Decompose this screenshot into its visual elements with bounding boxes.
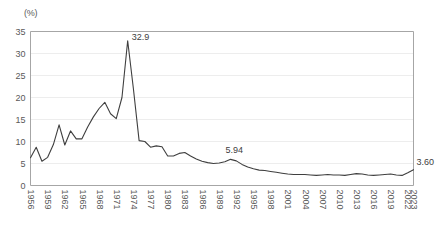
y-axis-tick-labels: 05101520253035: [15, 27, 25, 191]
chart-container: (%) 05101520253035 195619591962196519681…: [0, 0, 442, 234]
y-tick-label: 5: [20, 159, 25, 169]
x-tick-label: 1983: [180, 190, 190, 210]
last-value-annotation: 3.60: [417, 157, 435, 167]
x-axis-tick-labels: 1956195919621965196819711974197719801983…: [26, 190, 419, 210]
y-tick-label: 10: [15, 137, 25, 147]
x-tick-label: 2001: [283, 190, 293, 210]
x-tick-label: 1971: [112, 190, 122, 210]
x-tick-label: 2023: [409, 190, 419, 210]
data-annotations: 32.95.943.60: [132, 32, 434, 167]
x-tick-label: 1962: [60, 190, 70, 210]
data-line-series: [31, 41, 414, 176]
x-tick-label: 1989: [215, 190, 225, 210]
x-tick-label: 1959: [43, 190, 53, 210]
y-tick-label: 0: [20, 181, 25, 191]
x-tick-label: 2013: [352, 190, 362, 210]
x-tick-label: 1974: [129, 190, 139, 210]
x-tick-label: 2019: [386, 190, 396, 210]
x-tick-label: 1980: [163, 190, 173, 210]
x-tick-label: 1977: [146, 190, 156, 210]
y-tick-label: 20: [15, 93, 25, 103]
x-tick-label: 2007: [318, 190, 328, 210]
y-tick-label: 15: [15, 115, 25, 125]
x-tick-label: 1968: [95, 190, 105, 210]
x-tick-label: 1992: [232, 190, 242, 210]
x-tick-label: 1986: [198, 190, 208, 210]
gridlines: [31, 32, 414, 164]
y-tick-label: 30: [15, 49, 25, 59]
x-tick-label: 2010: [335, 190, 345, 210]
mid-value-annotation: 5.94: [226, 145, 244, 155]
x-tick-label: 2004: [301, 190, 311, 210]
x-tick-label: 1965: [78, 190, 88, 210]
y-tick-label: 25: [15, 71, 25, 81]
y-tick-label: 35: [15, 27, 25, 37]
line-chart-svg: 05101520253035 1956195919621965196819711…: [0, 0, 442, 234]
peak-value-annotation: 32.9: [132, 32, 150, 42]
x-tick-label: 2016: [369, 190, 379, 210]
x-tick-label: 1998: [266, 190, 276, 210]
x-tick-label: 1956: [26, 190, 36, 210]
series-rate-line: [31, 41, 414, 176]
x-tick-label: 1995: [249, 190, 259, 210]
